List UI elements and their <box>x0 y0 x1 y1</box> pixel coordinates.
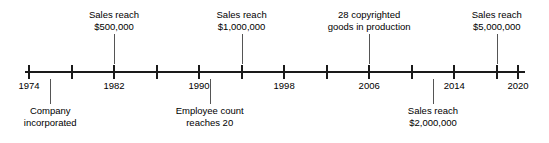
axis-year-label: 2006 <box>359 80 380 91</box>
event-callout: Sales reach$2,000,000 <box>408 105 458 128</box>
axis-tick <box>198 65 200 79</box>
axis-tick <box>28 65 30 79</box>
event-callout: Companyincorporated <box>24 105 77 128</box>
event-callout-line: Sales reach <box>408 105 458 117</box>
axis-year-label: 1974 <box>18 80 39 91</box>
axis-year-label: 2014 <box>444 80 465 91</box>
event-leader-line <box>497 34 498 64</box>
event-leader-line <box>242 34 243 64</box>
event-callout-line: $500,000 <box>89 21 139 33</box>
axis-tick <box>283 65 285 79</box>
event-callout-line: Company <box>24 105 77 117</box>
event-callout-line: $2,000,000 <box>408 117 458 129</box>
axis-tick <box>496 65 498 79</box>
axis-year-label: 1990 <box>189 80 210 91</box>
axis-tick <box>326 65 328 79</box>
axis-tick <box>411 65 413 79</box>
event-leader-line <box>210 79 211 104</box>
axis-year-label: 1998 <box>274 80 295 91</box>
event-leader-line <box>369 34 370 64</box>
axis-year-label: 2020 <box>507 80 528 91</box>
event-leader-line <box>114 34 115 64</box>
event-callout: Sales reach$500,000 <box>89 9 139 32</box>
event-callout: Employee countreaches 20 <box>176 105 244 128</box>
event-callout-line: $1,000,000 <box>217 21 267 33</box>
timeline-figure: 1974198219901998200620142020 Sales reach… <box>0 0 549 143</box>
event-callout-line: Employee count <box>176 105 244 117</box>
axis-tick <box>113 65 115 79</box>
event-callout-line: incorporated <box>24 117 77 129</box>
event-callout-line: reaches 20 <box>176 117 244 129</box>
event-callout: Sales reach$1,000,000 <box>217 9 267 32</box>
timeline-axis-line <box>25 71 525 73</box>
event-callout-line: Sales reach <box>89 9 139 21</box>
axis-tick <box>453 65 455 79</box>
event-callout-line: Sales reach <box>472 9 522 21</box>
event-leader-line <box>433 79 434 104</box>
axis-year-label: 1982 <box>103 80 124 91</box>
event-callout-line: Sales reach <box>217 9 267 21</box>
axis-tick <box>517 65 519 79</box>
axis-tick <box>241 65 243 79</box>
axis-tick <box>156 65 158 79</box>
axis-tick <box>368 65 370 79</box>
axis-tick <box>71 65 73 79</box>
event-callout-line: $5,000,000 <box>472 21 522 33</box>
event-callout-line: goods in production <box>328 21 411 33</box>
event-callout: Sales reach$5,000,000 <box>472 9 522 32</box>
event-leader-line <box>50 79 51 104</box>
event-callout: 28 copyrightedgoods in production <box>328 9 411 32</box>
event-callout-line: 28 copyrighted <box>328 9 411 21</box>
